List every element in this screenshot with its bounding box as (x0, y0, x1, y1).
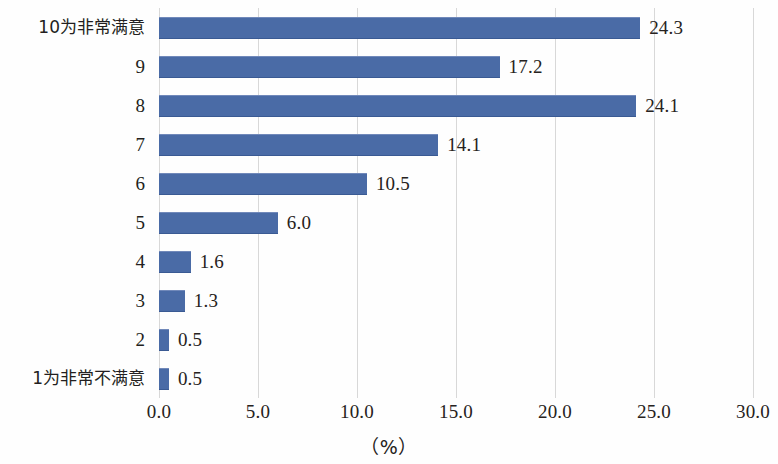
bar-row: 24.1 (159, 86, 753, 125)
y-axis-label: 5 (136, 203, 146, 242)
bar (159, 290, 185, 312)
bar-value-label: 0.5 (178, 369, 202, 388)
x-axis-tick-label: 10.0 (340, 402, 374, 421)
y-axis-label: 1为非常不满意 (32, 359, 145, 398)
bar (159, 251, 191, 273)
y-axis-label: 6 (136, 164, 146, 203)
bar-row: 1.3 (159, 281, 753, 320)
bar-row: 17.2 (159, 47, 753, 86)
bar (159, 173, 367, 195)
x-axis-tick-label: 25.0 (637, 402, 671, 421)
bar-row: 10.5 (159, 164, 753, 203)
bar-row: 24.3 (159, 8, 753, 47)
bar-value-label: 14.1 (447, 135, 481, 154)
bar (159, 134, 438, 156)
bar-value-label: 24.3 (649, 18, 683, 37)
bar-row: 6.0 (159, 203, 753, 242)
y-axis-label: 3 (136, 281, 146, 320)
bar-value-label: 1.3 (194, 291, 218, 310)
bar-value-label: 6.0 (287, 213, 311, 232)
bar (159, 368, 169, 390)
bar (159, 95, 636, 117)
x-axis-tick-label: 0.0 (147, 402, 171, 421)
x-axis-tick-label: 30.0 (736, 402, 770, 421)
bar (159, 212, 278, 234)
gridline-30.0 (753, 8, 754, 398)
y-axis-label: 8 (136, 86, 146, 125)
bar-value-label: 1.6 (200, 252, 224, 271)
bar-row: 0.5 (159, 359, 753, 398)
x-axis-tick-label: 15.0 (439, 402, 473, 421)
y-axis-label: 7 (136, 125, 146, 164)
bar-value-label: 0.5 (178, 330, 202, 349)
x-axis-tick-label: 20.0 (538, 402, 572, 421)
y-axis-label: 2 (136, 320, 146, 359)
x-axis-tick-label: 5.0 (246, 402, 270, 421)
bar-row: 0.5 (159, 320, 753, 359)
bar-rows: 24.317.224.114.110.56.01.61.30.50.5 (159, 8, 753, 398)
x-axis-tick-labels: 0.05.010.015.020.025.030.0 (159, 402, 753, 428)
y-axis-label: 10为非常满意 (38, 8, 145, 47)
y-axis-category-labels: 10为非常满意987654321为非常不满意 (0, 8, 152, 398)
bar-value-label: 24.1 (645, 96, 679, 115)
y-axis-label: 9 (136, 47, 146, 86)
bar-row: 1.6 (159, 242, 753, 281)
bar (159, 17, 640, 39)
y-axis-label: 4 (136, 242, 146, 281)
bar (159, 56, 500, 78)
bar-value-label: 10.5 (376, 174, 410, 193)
bar-value-label: 17.2 (509, 57, 543, 76)
chart-figure: 10为非常满意987654321为非常不满意 24.317.224.114.11… (0, 0, 778, 464)
bar-row: 14.1 (159, 125, 753, 164)
x-axis-title: （%） (0, 432, 778, 459)
bar (159, 329, 169, 351)
plot-area: 24.317.224.114.110.56.01.61.30.50.5 (159, 8, 753, 398)
